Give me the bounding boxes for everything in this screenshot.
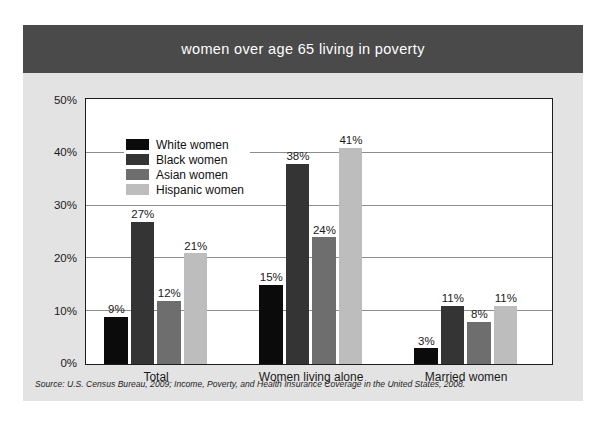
y-axis-tick-label: 40% <box>37 146 77 158</box>
bar-white-women-total[interactable] <box>104 317 128 365</box>
bar-value-label: 38% <box>286 150 309 162</box>
legend-item-white-women[interactable]: White women <box>126 137 244 152</box>
bar-value-label: 24% <box>313 224 336 236</box>
bar-hispanic-women-total[interactable] <box>184 253 208 364</box>
bar-white-women-married-women[interactable] <box>414 348 438 364</box>
chart-legend: White womenBlack womenAsian womenHispani… <box>124 135 250 200</box>
bar-value-label: 8% <box>471 308 488 320</box>
legend-item-label: White women <box>156 138 229 152</box>
chart-card: women over age 65 living in poverty 0%10… <box>23 25 583 401</box>
chart-title-band: women over age 65 living in poverty <box>23 25 583 73</box>
bar-value-label: 11% <box>495 292 517 304</box>
y-axis-tick-label: 30% <box>37 199 77 211</box>
bar-black-women-women-living-alone[interactable] <box>286 164 310 365</box>
bar-white-women-women-living-alone[interactable] <box>259 285 283 364</box>
legend-item-label: Black women <box>156 153 227 167</box>
bar-black-women-married-women[interactable] <box>441 306 465 364</box>
legend-item-hispanic-women[interactable]: Hispanic women <box>126 182 244 197</box>
legend-swatch-icon <box>126 169 149 180</box>
y-axis-tick-label: 0% <box>37 357 77 369</box>
bar-black-women-total[interactable] <box>131 222 155 365</box>
legend-item-label: Asian women <box>156 168 228 182</box>
legend-swatch-icon <box>126 139 149 150</box>
legend-swatch-icon <box>126 154 149 165</box>
legend-item-black-women[interactable]: Black women <box>126 152 244 167</box>
bar-value-label: 9% <box>108 303 125 315</box>
legend-item-label: Hispanic women <box>156 183 244 197</box>
bar-value-label: 3% <box>418 335 435 347</box>
bar-asian-women-total[interactable] <box>157 301 181 364</box>
bar-hispanic-women-women-living-alone[interactable] <box>339 148 363 364</box>
legend-swatch-icon <box>126 184 149 195</box>
chart-title: women over age 65 living in poverty <box>181 41 425 57</box>
bar-asian-women-married-women[interactable] <box>467 322 491 364</box>
bar-asian-women-women-living-alone[interactable] <box>312 237 336 364</box>
bar-value-label: 21% <box>184 240 207 252</box>
bar-value-label: 11% <box>442 292 464 304</box>
bar-hispanic-women-married-women[interactable] <box>494 306 518 364</box>
bar-value-label: 15% <box>260 271 283 283</box>
y-axis-tick-label: 20% <box>37 252 77 264</box>
bar-value-label: 27% <box>131 208 154 220</box>
bar-value-label: 12% <box>158 287 181 299</box>
source-note: Source: U.S. Census Bureau, 2009; Income… <box>35 379 465 389</box>
gridline <box>86 205 552 206</box>
y-axis-tick-label: 10% <box>37 305 77 317</box>
legend-item-asian-women[interactable]: Asian women <box>126 167 244 182</box>
y-axis-tick-label: 50% <box>37 94 77 106</box>
bar-value-label: 41% <box>339 134 362 146</box>
